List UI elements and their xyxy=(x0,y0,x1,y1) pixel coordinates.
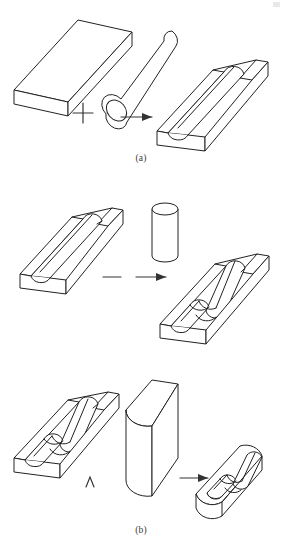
rounded-end-plate-section xyxy=(196,445,262,519)
result-arrow-c xyxy=(180,474,208,482)
result-arrow-b xyxy=(136,273,166,281)
vertical-cylinder xyxy=(152,203,178,262)
panel-c: (c) xyxy=(0,370,282,552)
panel-a: (a) xyxy=(0,0,282,184)
plate-with-ridge xyxy=(157,60,268,151)
plate-with-notched-ridge xyxy=(160,254,269,344)
csg-figure: (a) xyxy=(0,0,282,552)
plate-with-notched-ridge-operand xyxy=(14,392,119,478)
panel-c-drawing xyxy=(0,370,282,552)
rounded-end-block xyxy=(126,380,178,496)
panel-b: (b) xyxy=(0,184,282,370)
intersection-wedge-operator xyxy=(86,477,94,487)
panel-b-drawing xyxy=(0,184,282,370)
plate-with-ridge-operand xyxy=(20,208,123,294)
caption-a: (a) xyxy=(0,153,282,163)
